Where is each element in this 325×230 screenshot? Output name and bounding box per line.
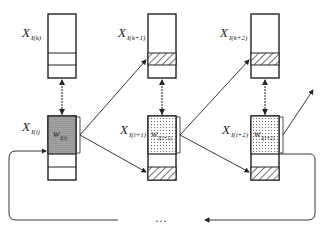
svg-text:I(i): I(i) [59, 135, 67, 142]
diagram-canvas: X I(k) X I(k+1) X I(k+2) X I(i) X I(i+1)… [0, 0, 325, 230]
svg-text:X: X [21, 25, 31, 40]
block-bottom-i1 [148, 116, 180, 180]
svg-text:w: w [254, 128, 261, 139]
block-top-k1 [148, 14, 176, 78]
svg-text:X: X [119, 122, 129, 137]
label-bottom-i1: X I(i+1) [119, 122, 147, 139]
ellipsis: … [155, 211, 167, 225]
dotted-arrows [62, 80, 265, 115]
svg-text:I(i+2): I(i+2) [260, 135, 275, 142]
block-bottom-i [48, 116, 80, 180]
svg-text:X: X [21, 119, 31, 134]
svg-text:I(k+1): I(k+1) [126, 34, 146, 42]
label-bottom-i: X I(i) [21, 119, 41, 136]
svg-text:I(i+1): I(i+1) [157, 135, 172, 142]
label-bottom-i2: X I(i+2) [221, 122, 249, 139]
svg-text:I(i+1): I(i+1) [128, 131, 147, 139]
block-bottom-i2 [251, 116, 283, 180]
svg-text:X: X [117, 25, 127, 40]
svg-text:I(k): I(k) [30, 34, 42, 42]
svg-text:X: X [219, 25, 229, 40]
block-top-k [48, 14, 76, 78]
svg-text:w: w [53, 128, 60, 139]
svg-text:I(i): I(i) [30, 128, 41, 136]
svg-text:I(i+2): I(i+2) [230, 131, 249, 139]
block-top-k2 [251, 14, 279, 78]
label-top-k: X I(k) [21, 25, 42, 42]
label-top-k2: X I(k+2) [219, 25, 248, 42]
svg-text:X: X [221, 122, 231, 137]
label-top-k1: X I(k+1) [117, 25, 146, 42]
svg-text:I(k+2): I(k+2) [228, 34, 248, 42]
svg-text:w: w [151, 128, 158, 139]
